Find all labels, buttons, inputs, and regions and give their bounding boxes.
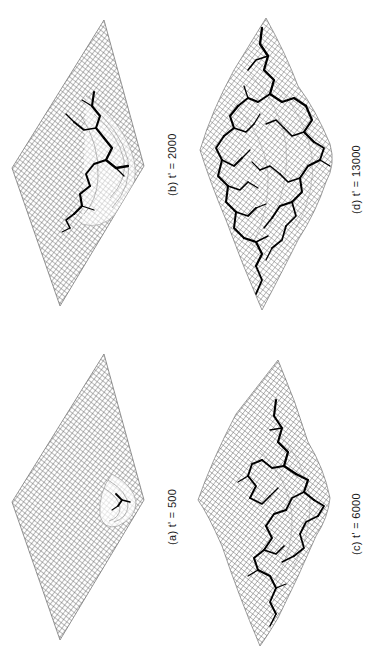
panel-a-mesh bbox=[8, 352, 148, 642]
panel-c-caption: (c) t' = 6000 bbox=[350, 493, 362, 555]
panel-d-surface bbox=[190, 14, 340, 314]
panel-a-caption: (a) t' = 500 bbox=[166, 489, 178, 545]
figure-container: (b) t' = 2000 bbox=[0, 0, 384, 662]
panel-b-caption: (b) t' = 2000 bbox=[166, 133, 178, 196]
panel-b-surface bbox=[8, 18, 148, 308]
panel-d-mesh bbox=[190, 14, 340, 314]
panel-b-mesh bbox=[8, 18, 148, 308]
panel-a-surface bbox=[8, 352, 148, 642]
panel-c-mesh bbox=[192, 358, 337, 648]
panel-d-caption: (d) t' = 13000 bbox=[350, 145, 362, 214]
panel-c-surface bbox=[192, 358, 337, 648]
